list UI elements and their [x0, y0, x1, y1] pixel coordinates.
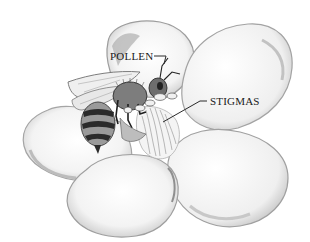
flower-and-bee-drawing	[0, 0, 310, 242]
petal-upper-right	[182, 24, 292, 130]
petal-lower-right	[168, 129, 288, 226]
stigmas-label: STIGMAS	[210, 95, 260, 107]
pollen-label: POLLEN	[110, 50, 153, 62]
flower-center-stigmas	[136, 107, 179, 159]
pollination-illustration: POLLEN STIGMAS	[0, 0, 310, 242]
